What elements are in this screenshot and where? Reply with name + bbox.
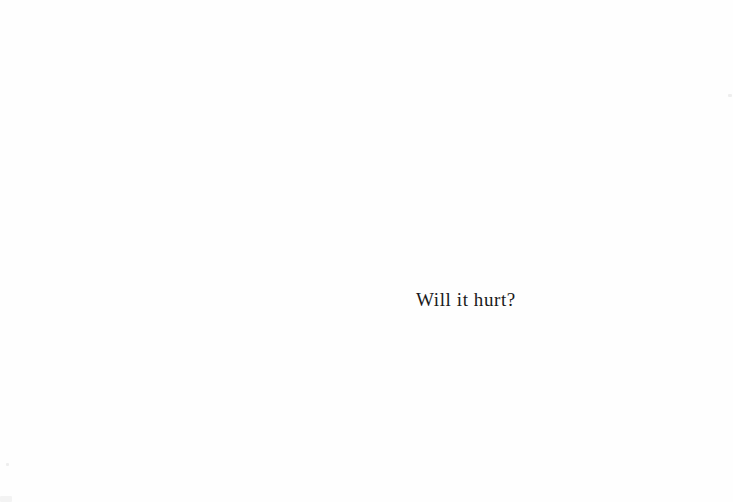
paper-speck <box>6 463 9 466</box>
paper-speck <box>0 496 12 502</box>
book-page: Will it hurt? <box>0 0 733 502</box>
page-text: Will it hurt? <box>416 289 516 311</box>
paper-speck <box>728 94 732 97</box>
